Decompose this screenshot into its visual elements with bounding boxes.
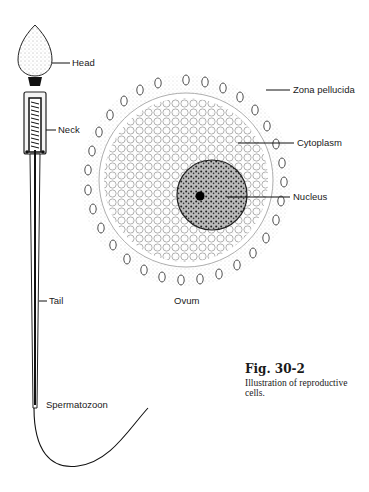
label-tail: Tail — [49, 295, 63, 306]
ovum-nucleus — [177, 160, 247, 230]
label-spermatozoon: Spermatozoon — [46, 399, 108, 410]
label-head: Head — [72, 57, 95, 68]
sperm-head — [18, 25, 52, 76]
label-cytoplasm: Cytoplasm — [297, 137, 342, 148]
figure-caption: Illustration of reproductive cells. — [245, 378, 369, 398]
figure-number: Fig. 30-2 — [245, 362, 305, 376]
label-ovum: Ovum — [174, 295, 199, 306]
label-neck: Neck — [58, 124, 80, 135]
label-zona-pellucida: Zona pellucida — [293, 84, 355, 95]
label-nucleus: Nucleus — [293, 191, 327, 202]
reproductive-cells-diagram — [0, 0, 369, 492]
ovum — [80, 74, 294, 286]
